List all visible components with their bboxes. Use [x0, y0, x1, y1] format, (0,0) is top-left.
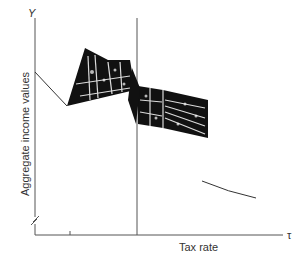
y-axis-label: Aggregate income values [19, 64, 31, 204]
axis-break-icon [31, 216, 39, 225]
y-axis-symbol: Y [28, 7, 35, 19]
left-branch [35, 72, 67, 106]
right-branch [202, 181, 256, 198]
x-axis-symbol: τ [287, 229, 291, 241]
x-axis-label: Tax rate [179, 241, 218, 253]
chart-canvas [0, 0, 307, 260]
